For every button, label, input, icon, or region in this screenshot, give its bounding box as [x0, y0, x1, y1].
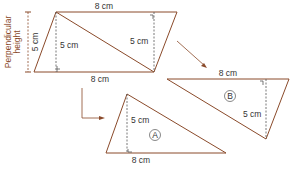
- parallelogram: 8 cm 8 cm 5 cm 5 cm Perpendicular height…: [3, 1, 177, 84]
- height-label: height: [12, 30, 22, 54]
- parallelogram-split-diagram: 8 cm 8 cm 5 cm 5 cm Perpendicular height…: [0, 0, 291, 171]
- top-length-label: 8 cm: [95, 1, 113, 11]
- triangle-a-id: A: [152, 130, 158, 140]
- perpendicular-value: 5 cm: [30, 33, 40, 51]
- bottom-length-label: 8 cm: [91, 74, 109, 84]
- arrow-to-a: [82, 88, 105, 120]
- triangle-a-base-label: 8 cm: [132, 155, 150, 165]
- triangle-b-base-label: 8 cm: [219, 68, 237, 78]
- triangle-a: 5 cm 8 cm A: [106, 94, 226, 165]
- right-height-label: 5 cm: [130, 36, 148, 46]
- inner-height-label: 5 cm: [60, 40, 78, 50]
- triangle-b-id: B: [227, 91, 233, 101]
- triangle-a-height-label: 5 cm: [131, 115, 149, 125]
- triangle-b-height-label: 5 cm: [243, 109, 261, 119]
- arrowhead-icon: [99, 116, 105, 120]
- arrow-to-b: [177, 41, 207, 68]
